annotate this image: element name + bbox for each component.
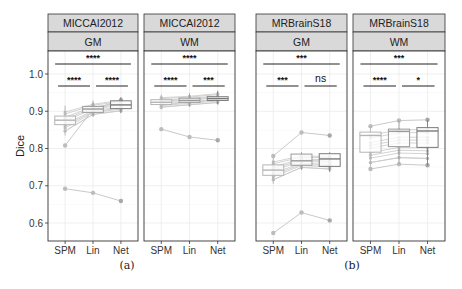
x-tick-label: Net <box>420 245 436 256</box>
significance-label: ns <box>315 72 326 84</box>
outlier-point <box>63 143 67 147</box>
y-tick-label: 0.6 <box>29 218 43 229</box>
panel-miccai2012-wm: MICCAI2012WM***********SPMLinNet <box>144 14 235 256</box>
x-tick-label: SPM <box>54 245 76 256</box>
x-tick-label: Lin <box>392 245 405 256</box>
x-tick-label: Net <box>322 245 338 256</box>
significance-label: **** <box>67 75 82 85</box>
subfigure-label-a: (a) <box>119 259 134 272</box>
strip-dataset-label: MRBrainS18 <box>369 17 429 29</box>
x-tick-label: Net <box>210 245 226 256</box>
box-lin <box>291 154 312 165</box>
significance-label: **** <box>105 75 120 85</box>
x-tick-label: Lin <box>183 245 196 256</box>
y-tick-label: 1.0 <box>29 69 43 80</box>
outlier-point <box>119 199 123 203</box>
strip-tissue-label: WM <box>180 36 199 48</box>
strip-tissue-label: GM <box>293 36 310 48</box>
x-tick-label: SPM <box>150 245 172 256</box>
strip-dataset-label: MICCAI2012 <box>63 17 123 29</box>
significance-label: * <box>417 75 421 85</box>
significance-label: *** <box>277 75 288 85</box>
significance-label: **** <box>182 53 197 63</box>
significance-label: **** <box>373 75 388 85</box>
panels: MICCAI2012GM************SPMLinNetMICCAI2… <box>48 14 445 256</box>
outlier-point <box>91 191 95 195</box>
x-tick-label: Lin <box>86 245 99 256</box>
y-axis-title: Dice <box>14 135 26 157</box>
outlier-point <box>299 210 303 214</box>
outlier-point <box>63 187 67 191</box>
panel-mrbrains18-wm: MRBrainS18WM********SPMLinNet <box>353 14 445 256</box>
outlier-point <box>159 127 163 131</box>
strip-dataset-label: MRBrainS18 <box>272 17 332 29</box>
box-net <box>319 154 340 167</box>
x-tick-label: Net <box>113 245 129 256</box>
significance-label: *** <box>394 53 405 63</box>
outlier-point <box>271 231 275 235</box>
strip-tissue-label: WM <box>390 36 409 48</box>
strip-dataset-label: MICCAI2012 <box>159 17 219 29</box>
y-tick-label: 0.7 <box>29 180 43 191</box>
outlier-point <box>328 218 332 222</box>
outlier-point <box>216 138 220 142</box>
figure: MICCAI2012GM************SPMLinNetMICCAI2… <box>0 0 462 289</box>
subfigure-label-b: (b) <box>344 259 360 272</box>
outlier-point <box>187 135 191 139</box>
panel-mrbrains18-gm: MRBrainS18GM******nsSPMLinNet <box>256 14 347 256</box>
outlier-point <box>328 133 332 137</box>
significance-label: **** <box>163 75 178 85</box>
significance-label: *** <box>296 53 307 63</box>
x-tick-label: SPM <box>262 245 284 256</box>
y-tick-label: 0.9 <box>29 106 43 117</box>
significance-label: **** <box>86 53 101 63</box>
y-axis: 0.60.70.80.91.0 <box>29 69 48 229</box>
y-tick-label: 0.8 <box>29 143 43 154</box>
significance-label: *** <box>203 75 214 85</box>
panel-miccai2012-gm: MICCAI2012GM************SPMLinNet <box>48 14 138 256</box>
x-tick-label: Lin <box>295 245 308 256</box>
x-tick-label: SPM <box>360 245 382 256</box>
outlier-point <box>299 130 303 134</box>
strip-tissue-label: GM <box>85 36 102 48</box>
